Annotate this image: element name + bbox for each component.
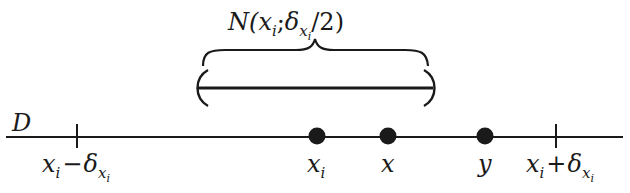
point-label-xi: xi [307, 150, 326, 182]
curly-brace-icon [203, 39, 428, 66]
open-interval [198, 70, 435, 106]
line-label: D [11, 109, 31, 137]
point-x [380, 128, 397, 145]
point-y [477, 128, 494, 145]
point-label-x: x [381, 150, 395, 178]
point-label-y: y [477, 150, 492, 178]
tick-label-left: xi−δxi [42, 150, 110, 185]
point-xi [309, 128, 326, 145]
neighborhood-label: N(xi;δxi/2) [227, 8, 344, 43]
tick-label-right: xi+δxi [526, 150, 594, 185]
neighborhood-diagram: N(xi;δxi/2) D xi−δxi xi+δxi xi x y [0, 0, 630, 193]
